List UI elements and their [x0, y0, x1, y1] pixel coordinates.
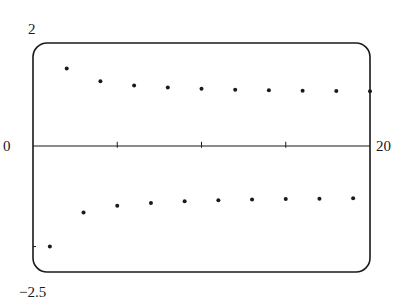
- data-point: [115, 204, 119, 208]
- data-point: [65, 66, 69, 70]
- scatter-plot: [0, 0, 404, 306]
- data-point: [250, 198, 254, 202]
- x-axis-ticks: [33, 142, 286, 247]
- data-point: [368, 89, 372, 93]
- data-point: [82, 211, 86, 215]
- data-point: [351, 196, 355, 200]
- data-point: [48, 245, 52, 249]
- data-point: [267, 88, 271, 92]
- data-point: [149, 201, 153, 205]
- data-point: [334, 89, 338, 93]
- data-point: [317, 197, 321, 201]
- data-point: [183, 199, 187, 203]
- data-point: [216, 198, 220, 202]
- data-point: [98, 79, 102, 83]
- data-point: [301, 89, 305, 93]
- data-point: [284, 197, 288, 201]
- data-point: [166, 86, 170, 90]
- data-point: [132, 83, 136, 87]
- data-points: [48, 66, 372, 248]
- data-point: [233, 88, 237, 92]
- data-point: [200, 87, 204, 91]
- plot-frame: [33, 43, 370, 272]
